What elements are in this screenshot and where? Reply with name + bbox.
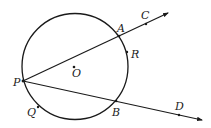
point-p-dot bbox=[22, 80, 25, 83]
label-q: Q bbox=[27, 106, 36, 119]
point-r-dot bbox=[126, 51, 128, 53]
geometry-diagram: P O A C R B D Q bbox=[0, 0, 211, 128]
label-r: R bbox=[130, 48, 139, 61]
label-p: P bbox=[12, 76, 21, 89]
label-o: O bbox=[72, 67, 81, 80]
point-a-dot bbox=[118, 35, 121, 38]
point-b-dot bbox=[115, 100, 118, 103]
label-d: D bbox=[174, 100, 184, 113]
point-q-dot bbox=[37, 106, 39, 108]
label-b: B bbox=[111, 106, 120, 119]
label-c: C bbox=[141, 9, 150, 22]
point-d-dot bbox=[178, 114, 180, 116]
point-c-dot bbox=[145, 23, 147, 25]
label-a: A bbox=[116, 22, 125, 35]
